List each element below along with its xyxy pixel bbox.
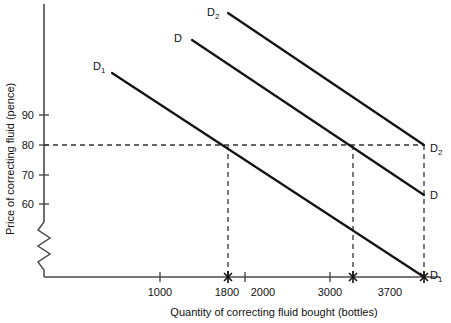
x-axis-title: Quantity of correcting fluid bought (bot… <box>170 306 377 318</box>
demand-curve-d2[interactable] <box>228 13 424 145</box>
y-tick-label-90: 90 <box>22 109 34 121</box>
y-axis-break-icon <box>38 222 50 277</box>
y-tick-label-70: 70 <box>22 169 34 181</box>
chart-canvas: 90 80 70 60 1000 1800 2000 3000 3700 <box>0 0 451 323</box>
axes-group <box>38 4 440 277</box>
demand-curve-d1[interactable] <box>112 73 424 277</box>
curve-label-d2-top: D2 <box>207 6 220 21</box>
x-tick-label-3700: 3700 <box>378 286 402 298</box>
x-tick-label-2000: 2000 <box>251 286 275 298</box>
curve-label-d2-right: D2 <box>430 142 443 157</box>
x-tick-label-1800: 1800 <box>215 286 239 298</box>
demand-curve-d[interactable] <box>192 40 424 195</box>
curve-end-labels-group: D2 D D1 <box>430 142 443 284</box>
curve-label-d-top: D <box>174 32 182 44</box>
curve-start-labels-group: D1 D D2 <box>93 6 220 75</box>
x-tick-label-3000: 3000 <box>318 286 342 298</box>
y-axis-title: Price of correcting fluid (pence) <box>4 83 16 235</box>
curve-label-d-right: D <box>430 189 438 201</box>
curve-label-d1-top: D1 <box>93 60 106 75</box>
curve-label-d1-right: D1 <box>430 269 443 284</box>
x-tick-label-1000: 1000 <box>148 286 172 298</box>
x-tick-group: 1000 1800 2000 3000 3700 <box>148 272 402 298</box>
y-tick-group: 90 80 70 60 <box>22 109 49 210</box>
y-tick-label-60: 60 <box>22 198 34 210</box>
y-tick-label-80: 80 <box>22 139 34 151</box>
guide-lines-group <box>44 145 424 275</box>
